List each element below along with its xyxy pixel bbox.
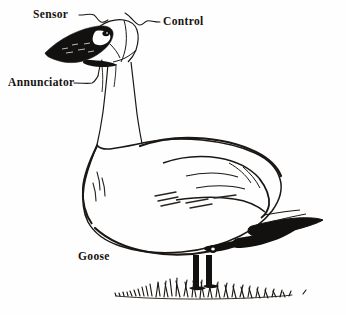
grass-icon — [115, 278, 306, 299]
leader-control — [125, 13, 160, 25]
eye-icon — [102, 31, 109, 36]
crown-crease-icon — [121, 20, 126, 62]
leader-sensor — [79, 14, 108, 22]
foot-front-icon — [189, 287, 206, 291]
annotation-label-annunciator: Annunciator — [8, 77, 74, 89]
jaw-line-icon — [110, 44, 120, 58]
annotation-label-sensor: Sensor — [33, 9, 68, 21]
figure-canvas: Sensor Control Annunciator Goose — [0, 0, 346, 315]
annotation-label-goose: Goose — [78, 251, 110, 263]
lower-mandible-icon — [83, 60, 117, 67]
leader-annunciator — [74, 76, 98, 83]
annotation-label-control: Control — [163, 16, 204, 28]
goose-head-icon — [45, 20, 138, 67]
foot-rear-icon — [203, 285, 219, 289]
neck-icon — [97, 62, 143, 148]
goose-illustration — [0, 0, 346, 315]
eye-highlight-icon — [106, 32, 108, 34]
